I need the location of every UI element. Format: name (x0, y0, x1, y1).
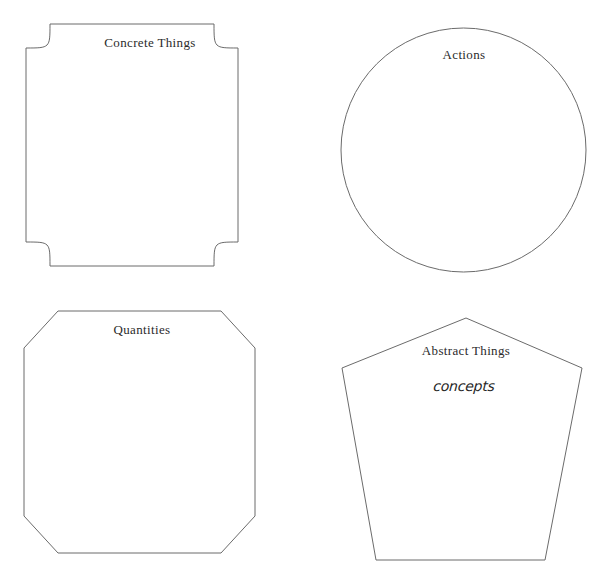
abstract-things-annotation: concepts (433, 379, 496, 393)
actions-shape (341, 28, 586, 272)
actions-label: Actions (443, 48, 486, 61)
quantities-label: Quantities (114, 323, 171, 336)
quantities-shape (24, 311, 255, 553)
abstract-things-label: Abstract Things (422, 344, 510, 357)
shapes-figure (0, 0, 602, 581)
diagram-canvas: Concrete Things Actions Quantities Abstr… (0, 0, 602, 581)
concrete-things-label: Concrete Things (104, 36, 195, 49)
concrete-things-shape (26, 24, 238, 266)
